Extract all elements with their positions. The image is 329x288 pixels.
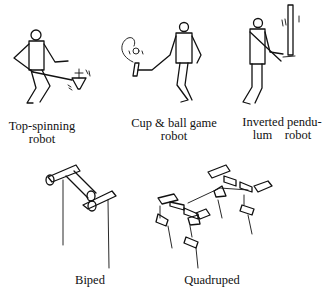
- caption-line: Quadruped: [172, 274, 252, 287]
- quadruped-robot-drawing: [156, 165, 272, 268]
- caption-line: robot: [2, 133, 82, 146]
- caption-line: robot: [124, 130, 224, 143]
- caption-biped: Biped: [60, 274, 120, 287]
- top-spinning-robot-drawing: [14, 30, 90, 103]
- inverted-pendulum-robot-drawing: [243, 5, 299, 104]
- biped-robot-drawing: [46, 165, 116, 268]
- caption-cup-ball: Cup & ball game robot: [124, 117, 224, 143]
- cup-ball-robot-drawing: [122, 23, 201, 103]
- caption-quadruped: Quadruped: [172, 274, 252, 287]
- caption-top-spinning: Top-spinning robot: [2, 120, 82, 146]
- caption-line: Biped: [60, 274, 120, 287]
- caption-line: lum robot: [236, 129, 328, 142]
- caption-inverted-pendulum: Inverted pendu- lum robot: [236, 116, 328, 142]
